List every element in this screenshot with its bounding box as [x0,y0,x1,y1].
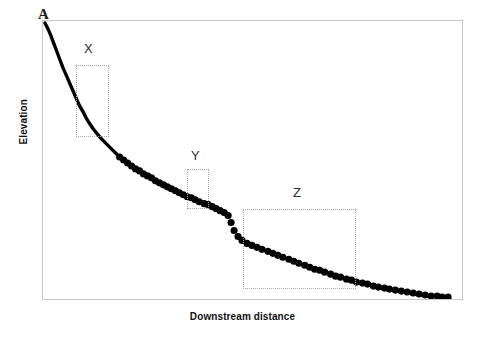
profile-data-point [228,219,235,226]
plot-area: X Y Z [42,20,463,300]
profile-data-point [375,284,382,291]
region-label-z: Z [293,186,301,199]
profile-data-point [404,288,411,295]
figure-container: A X Y Z Downstream distance Elevation [0,0,485,337]
region-label-y: Y [191,149,200,162]
profile-data-point [225,212,232,219]
profile-data-point [231,227,238,234]
profile-data-point [444,293,451,299]
x-axis-title: Downstream distance [0,311,485,322]
region-box-y [187,169,209,209]
profile-data-point [410,289,417,296]
profile-data-point [422,291,429,298]
profile-data-point [392,286,399,293]
region-box-x [76,65,109,137]
profile-data-point [398,287,405,294]
y-axis-title: Elevation [18,123,29,145]
region-box-z [243,209,356,289]
profile-data-point [416,290,423,297]
profile-data-point [386,285,393,292]
region-label-x: X [84,42,93,55]
